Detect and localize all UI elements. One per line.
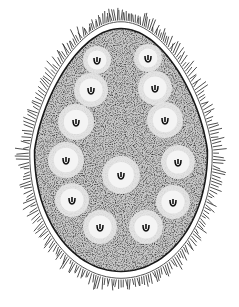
cilium <box>166 37 168 46</box>
vesicle <box>156 185 190 219</box>
cilium <box>23 178 30 180</box>
vesicle <box>161 145 195 179</box>
cilium <box>148 19 150 29</box>
cilium <box>210 190 218 194</box>
cilium <box>37 218 41 221</box>
cilium <box>148 274 149 282</box>
cilium <box>211 184 219 187</box>
cilium <box>24 124 34 128</box>
vesicle <box>129 210 163 244</box>
cilium <box>98 15 99 26</box>
cilium <box>202 216 206 218</box>
cilium <box>27 110 37 113</box>
cilium <box>20 166 29 168</box>
cilium <box>112 279 113 290</box>
cilium <box>213 145 222 147</box>
cilium <box>144 276 145 285</box>
cilium <box>213 156 224 158</box>
vesicle <box>48 142 84 178</box>
cilium <box>161 28 165 40</box>
cilium <box>213 149 227 150</box>
cilium <box>77 27 81 40</box>
cilium <box>126 279 128 286</box>
cilium <box>107 278 108 284</box>
cilium <box>104 278 105 285</box>
cilium <box>18 163 29 166</box>
cilium <box>44 234 49 240</box>
cilium <box>24 172 30 174</box>
cilium <box>200 97 205 101</box>
cilium <box>35 97 42 101</box>
vesicle <box>58 104 94 140</box>
vesicle <box>74 73 108 107</box>
cilium <box>24 190 33 194</box>
cilium <box>123 12 124 20</box>
cilium <box>203 213 210 219</box>
cilium <box>185 245 189 255</box>
cilium <box>213 166 220 169</box>
cilium <box>24 133 32 134</box>
cilium <box>177 255 183 265</box>
cilium <box>77 268 81 278</box>
cilium <box>114 279 115 285</box>
cilium <box>210 128 222 131</box>
cilium <box>43 78 50 85</box>
cilium <box>209 125 219 129</box>
cilium <box>165 36 167 43</box>
cilium <box>173 41 178 53</box>
cilium <box>182 62 186 66</box>
cilium <box>132 279 133 285</box>
cilium <box>31 205 37 207</box>
cilium <box>137 16 138 24</box>
cilium <box>21 141 30 144</box>
cilium <box>169 262 172 270</box>
cilium <box>161 268 162 275</box>
vesicle <box>147 102 183 138</box>
cilium <box>30 207 38 212</box>
cilium <box>124 12 125 20</box>
cilium <box>81 269 83 279</box>
cilium <box>60 253 64 259</box>
cilium <box>211 137 218 138</box>
cilium <box>115 279 117 287</box>
cilium <box>212 175 221 178</box>
vesicle <box>134 44 162 72</box>
cilium <box>192 79 201 85</box>
cilium <box>33 216 41 224</box>
cilium <box>89 273 92 284</box>
cilium <box>128 13 129 21</box>
cilium <box>133 15 134 23</box>
cilium <box>114 10 116 21</box>
cilium <box>213 159 225 160</box>
cilium <box>45 67 54 76</box>
cell-illustration <box>0 0 239 307</box>
cilium <box>22 137 32 138</box>
cilium <box>212 137 225 140</box>
cilium <box>213 163 223 164</box>
cilium <box>190 238 197 246</box>
cilium <box>212 141 221 144</box>
cilium <box>207 202 217 207</box>
cilium <box>83 27 84 37</box>
cilium <box>208 196 212 198</box>
cilium <box>158 29 160 36</box>
cilium <box>102 277 103 289</box>
cilium <box>178 253 180 258</box>
cilium <box>103 13 104 24</box>
cilium <box>31 213 39 220</box>
cilium <box>160 33 162 39</box>
cilium <box>53 245 57 252</box>
ciliate-drawing <box>0 0 239 307</box>
cilium <box>204 210 209 214</box>
vesicle <box>138 71 172 105</box>
vesicle <box>83 46 111 74</box>
cilium <box>33 106 39 110</box>
cilium <box>207 120 212 122</box>
cilium <box>16 153 28 154</box>
cilium <box>146 275 148 287</box>
cilium <box>206 116 213 119</box>
cilium <box>23 147 29 149</box>
cilium <box>150 273 152 284</box>
cilium <box>107 13 108 22</box>
cilium <box>51 70 55 74</box>
